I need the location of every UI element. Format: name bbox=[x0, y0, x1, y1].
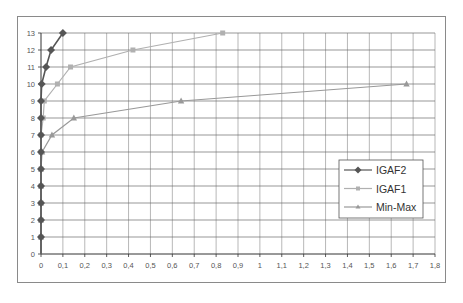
series-igaf1 bbox=[39, 31, 226, 255]
y-tick-label: 7 bbox=[31, 131, 35, 140]
triangle-marker-icon bbox=[403, 81, 409, 87]
y-tick-label: 2 bbox=[31, 216, 35, 225]
square-marker-icon bbox=[55, 82, 60, 87]
y-tick-label: 13 bbox=[27, 29, 35, 38]
x-tick-label: 1,8 bbox=[430, 261, 440, 270]
x-tick-label: 0,9 bbox=[233, 261, 243, 270]
y-tick-label: 4 bbox=[31, 182, 35, 191]
x-tick-label: 0,3 bbox=[101, 261, 111, 270]
y-tick-label: 11 bbox=[27, 63, 35, 72]
square-marker-icon bbox=[356, 187, 360, 191]
y-tick-label: 10 bbox=[27, 80, 35, 89]
y-tick-label: 5 bbox=[31, 165, 35, 174]
y-tick-label: 3 bbox=[31, 199, 35, 208]
y-tick-label: 6 bbox=[31, 148, 35, 157]
legend-label: IGAF1 bbox=[376, 183, 407, 195]
x-tick-label: 1,4 bbox=[342, 261, 352, 270]
y-tick-label: 9 bbox=[31, 97, 35, 106]
x-tick-label: 1,6 bbox=[386, 261, 396, 270]
diamond-marker-icon bbox=[37, 233, 45, 241]
triangle-marker-icon bbox=[49, 132, 55, 138]
x-tick-label: 1,1 bbox=[277, 261, 287, 270]
diamond-marker-icon bbox=[37, 165, 45, 173]
diamond-marker-icon bbox=[38, 80, 46, 88]
x-tick-label: 0,2 bbox=[80, 261, 90, 270]
x-tick-label: 0,1 bbox=[58, 261, 68, 270]
y-tick-label: 12 bbox=[27, 46, 35, 55]
x-tick-label: 0,8 bbox=[211, 261, 221, 270]
x-tick-label: 1,5 bbox=[364, 261, 374, 270]
x-tick-label: 0,4 bbox=[123, 261, 133, 270]
diamond-marker-icon bbox=[42, 63, 50, 71]
axes bbox=[38, 33, 435, 257]
square-marker-icon bbox=[220, 31, 225, 36]
y-tick-label: 8 bbox=[31, 114, 35, 123]
diamond-marker-icon bbox=[37, 199, 45, 207]
gridlines bbox=[41, 33, 435, 254]
x-tick-label: 0 bbox=[39, 261, 43, 270]
x-tick-label: 1 bbox=[258, 261, 262, 270]
x-tick-label: 1,7 bbox=[408, 261, 418, 270]
legend-label: IGAF2 bbox=[376, 164, 407, 176]
x-axis-ticks: 00,10,20,30,40,50,60,70,80,911,11,21,31,… bbox=[39, 261, 440, 270]
diamond-marker-icon bbox=[37, 131, 45, 139]
x-tick-label: 1,2 bbox=[298, 261, 308, 270]
diamond-marker-icon bbox=[37, 216, 45, 224]
x-tick-label: 0,7 bbox=[189, 261, 199, 270]
legend: IGAF2 IGAF1 Min-Max bbox=[339, 160, 423, 218]
diamond-marker-icon bbox=[37, 182, 45, 190]
y-axis-ticks: 012345678910111213 bbox=[27, 29, 35, 259]
chart-plot: 00,10,20,30,40,50,60,70,80,911,11,21,31,… bbox=[0, 0, 463, 303]
legend-label: Min-Max bbox=[376, 201, 417, 213]
x-tick-label: 1,3 bbox=[320, 261, 330, 270]
square-marker-icon bbox=[130, 48, 135, 53]
y-tick-label: 0 bbox=[31, 250, 35, 259]
square-marker-icon bbox=[68, 65, 73, 70]
y-tick-label: 1 bbox=[31, 233, 35, 242]
x-tick-label: 0,6 bbox=[167, 261, 177, 270]
x-tick-label: 0,5 bbox=[145, 261, 155, 270]
